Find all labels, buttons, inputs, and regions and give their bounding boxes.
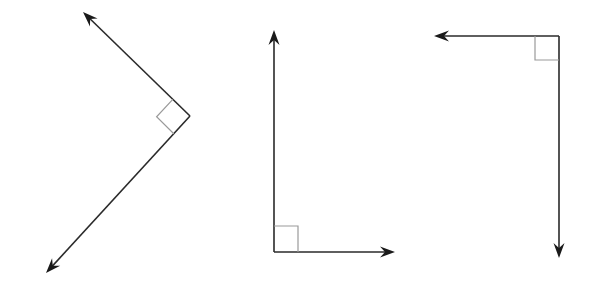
diagram-canvas (0, 0, 593, 291)
upper-left-ray (89, 18, 190, 116)
angle-3 (434, 31, 565, 259)
right-angles-diagram (0, 0, 593, 291)
angle-2 (269, 30, 396, 258)
angle-1 (46, 12, 190, 273)
right-angle-marker (535, 36, 559, 60)
right-angle-marker (274, 226, 298, 252)
lower-left-ray (52, 116, 190, 266)
right-angle-marker (157, 99, 174, 133)
